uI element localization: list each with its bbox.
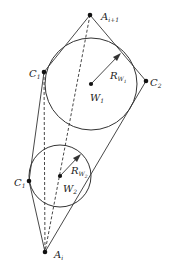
- label-a-next: Ai+1: [100, 11, 119, 23]
- label-r-w1: RW1: [109, 70, 127, 84]
- point-w2: [58, 174, 62, 178]
- label-c1-upper: C1: [29, 68, 40, 80]
- line-anext-c2: [90, 15, 146, 81]
- point-w1: [89, 82, 93, 86]
- point-c1-upper: [42, 70, 47, 75]
- line-c1upper-c1lower: [29, 72, 44, 181]
- line-c2-ai: [45, 81, 146, 252]
- label-c2: C2: [150, 77, 162, 89]
- point-c1-lower: [27, 179, 32, 184]
- line-anext-c1: [44, 15, 90, 72]
- path-planning-diagram: Ai+1 C1 C2 W1 RW1 C1 W2 RW2 Ai: [0, 0, 171, 271]
- point-c2: [144, 79, 149, 84]
- label-w1: W1: [90, 92, 104, 104]
- label-r-w2: RW2: [70, 165, 88, 179]
- label-a-i: Ai: [53, 249, 63, 261]
- label-w2: W2: [63, 183, 77, 195]
- point-a-next: [88, 13, 93, 18]
- line-c1lower-ai: [29, 181, 45, 252]
- dashed-anext-ai: [45, 15, 90, 252]
- point-a-i: [43, 250, 48, 255]
- label-c1-lower: C1: [14, 177, 25, 189]
